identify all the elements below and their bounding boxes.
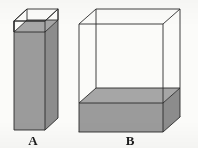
container-b-label: B [126,133,135,148]
container-a-rim-diagonal-right [45,9,58,21]
containers-figure: A B [0,0,198,148]
container-b-liquid-front [79,103,163,132]
container-a: A [14,9,58,148]
diagram-canvas: A B [0,0,198,148]
container-a-liquid-right-face [45,20,58,130]
container-a-label: A [28,133,38,148]
container-b: B [79,9,180,148]
container-a-rim-diagonal-left [14,9,27,21]
container-b-rim-top [79,9,180,24]
container-a-liquid-front [14,32,45,130]
container-b-liquid-surface [79,88,180,103]
